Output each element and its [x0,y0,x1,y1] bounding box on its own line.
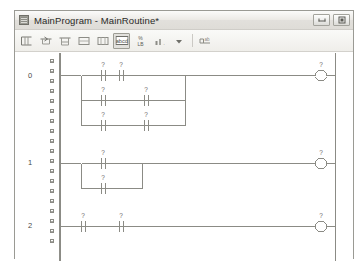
contact-tag[interactable]: ? [116,212,126,219]
gutter-marker[interactable] [50,239,54,243]
append-rung-icon [77,35,90,47]
examine-on-button[interactable]: abcd [113,33,130,49]
gutter-marker[interactable] [50,129,54,133]
output-energize-button[interactable]: % LB [132,33,149,49]
gutter-marker[interactable] [50,149,54,153]
minimize-button[interactable] [313,14,330,26]
window-title: MainProgram - MainRoutine* [34,15,313,26]
coil-tag[interactable]: ? [316,149,326,156]
gutter-divider [59,53,60,261]
svg-text:.: . [163,40,165,46]
coil-icon: % LB [134,35,147,47]
ladder-canvas-scroll[interactable]: 0 1 2 [15,52,353,261]
insert-in-branch-button[interactable] [94,33,111,49]
rung-number-2: 2 [15,221,45,230]
svg-text:abcd: abcd [115,37,127,43]
new-rung-button[interactable] [18,33,35,49]
coil-tag[interactable]: ? [316,61,326,68]
gutter-marker[interactable] [50,169,54,173]
toolbar-separator [192,34,193,47]
gutter-marker[interactable] [50,99,54,103]
append-to-rung-button[interactable] [75,33,92,49]
new-branch-icon [39,35,52,47]
contact-tag[interactable]: ? [98,86,108,93]
gutter-marker[interactable] [50,109,54,113]
ladder-toolbar: abcd % LB . [15,30,353,52]
maximize-icon [338,17,345,24]
gutter-marker[interactable] [50,69,54,73]
rung-number-1: 1 [15,158,45,167]
insert-branch-icon [96,35,109,47]
contact-tag[interactable]: ? [78,212,88,219]
gutter-marker[interactable] [50,139,54,143]
gutter-marker[interactable] [50,59,54,63]
timer-icon: . [153,35,166,47]
contact-tag[interactable]: ? [98,61,108,68]
favorites-button[interactable]: ab [196,33,213,49]
window-titlebar[interactable]: MainProgram - MainRoutine* [15,11,353,30]
new-branch-level-icon [58,35,71,47]
contact-tag[interactable]: ? [141,111,151,118]
abcd-icon: abcd [115,35,128,47]
new-rung-icon [20,35,33,47]
new-branch-button[interactable] [37,33,54,49]
gutter-marker[interactable] [50,119,54,123]
minimize-icon [318,19,325,22]
new-branch-level-button[interactable] [56,33,73,49]
gutter-marker[interactable] [50,199,54,203]
coil-tag[interactable]: ? [316,212,326,219]
gutter-marker[interactable] [50,189,54,193]
gutter-marker[interactable] [50,219,54,223]
ladder-editor-window: MainProgram - MainRoutine* [14,10,354,259]
gutter-marker[interactable] [50,89,54,93]
contact-tag[interactable]: ? [98,111,108,118]
window-controls [313,14,350,26]
chevron-down-icon [172,35,185,47]
svg-text:ab: ab [204,37,210,42]
contact-tag[interactable]: ? [116,61,126,68]
dropdown-button[interactable] [170,33,187,49]
contact-tag[interactable]: ? [98,149,108,156]
contact-tag[interactable]: ? [98,174,108,181]
gutter-marker[interactable] [50,229,54,233]
gutter-marker[interactable] [50,159,54,163]
svg-text:LB: LB [137,40,144,46]
ladder-canvas[interactable]: 0 1 2 [15,53,353,261]
gutter-marker[interactable] [50,79,54,83]
maximize-button[interactable] [333,14,350,26]
rung-number-0: 0 [15,71,45,80]
ladder-diagram [15,53,353,261]
contact-tag[interactable]: ? [141,86,151,93]
timer-counter-button[interactable]: . [151,33,168,49]
routine-icon [19,15,29,25]
tab-icon: ab [198,35,211,47]
gutter-marker[interactable] [50,179,54,183]
gutter-marker[interactable] [50,209,54,213]
